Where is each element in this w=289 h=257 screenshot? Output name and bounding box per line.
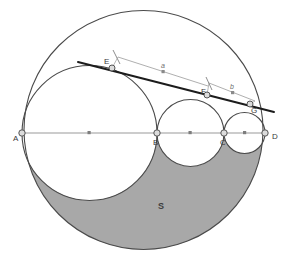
point-node-C[interactable] [221,130,227,136]
axis-midpoint-mark-AB [88,131,91,134]
point-label-B: B [153,138,158,147]
region-label-S: S [158,201,164,211]
point-node-E[interactable] [109,65,115,71]
segment-label-a: a [161,62,165,69]
point-label-G: G [251,106,257,115]
point-label-E: E [104,57,109,66]
point-node-B[interactable] [154,130,160,136]
point-label-C: C [220,138,226,147]
segment-label-b: b [230,83,234,90]
point-label-D: D [272,132,278,141]
point-node-A[interactable] [19,130,25,136]
axis-midpoint-mark-CD [243,131,246,134]
point-label-A: A [13,134,19,143]
measure-b-midpoint-mark [231,91,234,94]
diagram-canvas: A B C D E F G a b S [0,0,289,257]
geometry-figure: A B C D E F G a b S [0,0,289,257]
shaded-region-S [0,0,289,257]
axis-midpoint-mark-BC [189,131,192,134]
point-label-F: F [201,87,206,96]
point-node-D[interactable] [262,130,268,136]
measure-a-midpoint-mark [162,70,165,73]
